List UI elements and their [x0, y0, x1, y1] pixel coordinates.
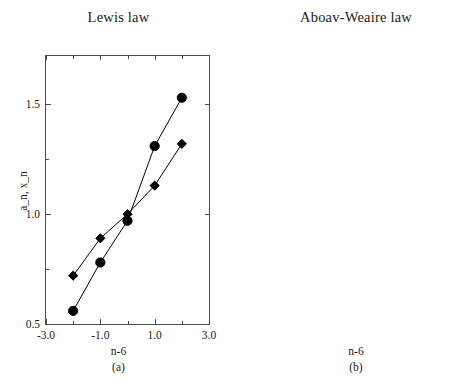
panel-a-caption: (a) — [0, 361, 237, 373]
x-tick-label-a: -3.0 — [37, 324, 55, 341]
y-tick-a — [46, 214, 51, 215]
y-minor-tick-a — [46, 269, 49, 270]
data-point-circle — [177, 93, 186, 102]
x-tick-top-a — [209, 56, 210, 60]
data-point-circle — [96, 258, 105, 267]
panel-a-title: Lewis law — [0, 9, 237, 26]
y-minor-tick-a — [46, 159, 49, 160]
x-minor-tick-a — [128, 321, 129, 324]
panel-a-y-axis-title: a_n, x_n — [17, 161, 29, 221]
data-point-circle — [69, 306, 78, 315]
x-minor-tick-a — [182, 321, 183, 324]
y-tick-right-a — [205, 214, 209, 215]
y-tick-label-a: 1.5 — [26, 98, 46, 110]
x-tick-top-a — [46, 56, 47, 60]
panel-a-x-axis-title: n-6 — [0, 345, 237, 357]
x-tick-label-a: 3.0 — [202, 324, 216, 341]
x-minor-tick-a — [73, 321, 74, 324]
plot-area-lewis-law: 0.51.01.5-3.0-1.01.03.0 — [45, 55, 210, 325]
panel-b-x-axis-title: n-6 — [237, 345, 475, 357]
y-tick-a — [46, 104, 51, 105]
series-line-a_n — [73, 98, 182, 311]
x-tick-label-a: 1.0 — [147, 324, 161, 341]
panel-aboav-weaire-law: Aboav-Weaire law 25.030.035.040.045.050.… — [237, 0, 475, 382]
panel-b-caption: (b) — [237, 361, 475, 373]
data-point-diamond — [177, 139, 186, 148]
plot-a-data-layer — [46, 56, 211, 326]
data-point-circle — [150, 141, 159, 150]
y-tick-right-a — [205, 104, 209, 105]
panel-lewis-law: Lewis law 0.51.01.5-3.0-1.01.03.0 n-6 a_… — [0, 0, 237, 382]
x-minor-tick-top-a — [182, 56, 183, 59]
figure-two-panel-plot: Lewis law 0.51.01.5-3.0-1.01.03.0 n-6 a_… — [0, 0, 475, 382]
x-minor-tick-top-a — [73, 56, 74, 59]
data-point-diamond — [69, 271, 78, 280]
x-tick-top-a — [100, 56, 101, 60]
x-minor-tick-top-a — [128, 56, 129, 59]
panel-b-title: Aboav-Weaire law — [237, 9, 475, 26]
x-tick-top-a — [155, 56, 156, 60]
x-tick-label-a: -1.0 — [91, 324, 109, 341]
